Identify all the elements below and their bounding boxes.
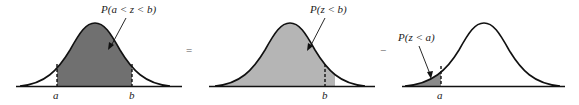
minus-operator: − [380, 44, 386, 56]
marker-b-label: b [129, 89, 135, 101]
pointer-arrow [419, 46, 430, 74]
marker-b-label: b [322, 89, 328, 101]
probability-label: P(z < b) [309, 3, 347, 16]
shaded-area-a-to-b [20, 23, 170, 86]
equals-operator: = [186, 44, 192, 56]
panel-less-than-a: a P(z < a) [397, 23, 565, 101]
panel-between-a-and-b: a b P(a < z < b) [16, 3, 182, 101]
shaded-area-left-of-b [215, 23, 365, 86]
marker-a-label: a [53, 89, 59, 101]
probability-label: P(a < z < b) [100, 3, 157, 16]
panel-less-than-b: b P(z < b) [209, 3, 375, 101]
probability-label: P(z < a) [397, 31, 435, 44]
normal-distribution-equation-diagram: a b P(a < z < b) = b P(z < b) − a P(z < … [0, 0, 579, 105]
pointer-arrow [310, 18, 325, 47]
marker-a-label: a [437, 89, 443, 101]
pointer-arrow [111, 18, 126, 46]
